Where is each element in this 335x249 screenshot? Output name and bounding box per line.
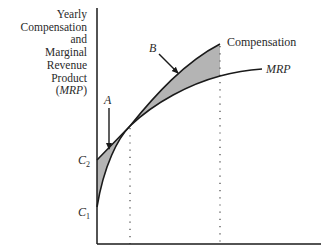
- c2-sub: 2: [86, 160, 90, 169]
- label-a: A: [103, 93, 112, 107]
- arrow-b: [159, 54, 178, 73]
- c1-sub: 1: [86, 212, 90, 221]
- label-c1: C1: [78, 205, 90, 221]
- compensation-mrp-diagram: A B Compensation MRP C2 C1: [0, 0, 335, 249]
- label-c2: C2: [78, 153, 90, 169]
- shaded-region-a: [97, 126, 130, 207]
- label-compensation: Compensation: [227, 35, 296, 49]
- label-b: B: [149, 41, 157, 55]
- label-mrp: MRP: [265, 62, 291, 76]
